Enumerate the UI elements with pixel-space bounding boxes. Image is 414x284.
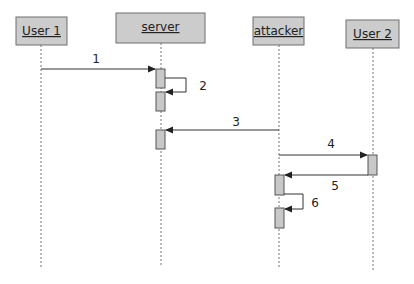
- message-label: 2: [199, 79, 207, 93]
- message-label: 4: [327, 137, 335, 151]
- actor-user1: User 1: [16, 17, 67, 45]
- message-label: 1: [92, 52, 100, 66]
- actor-label: server: [142, 20, 180, 34]
- message-4: 4: [279, 137, 367, 155]
- actor-label: attacker: [254, 24, 304, 38]
- message-3: 3: [166, 115, 279, 130]
- message-1: 1: [41, 52, 155, 69]
- actor-label: User 2: [353, 27, 392, 41]
- activation-server-1: [156, 69, 165, 88]
- message-5: 5: [285, 175, 368, 193]
- message-6: 6: [284, 194, 319, 210]
- activation-user2: [368, 155, 377, 175]
- message-label: 5: [331, 179, 339, 193]
- message-label: 6: [311, 196, 319, 210]
- message-2: 2: [165, 78, 207, 93]
- sequence-diagram: User 1 server attacker User 2 1 2 3 4: [0, 0, 414, 284]
- actor-label: User 1: [22, 24, 61, 38]
- message-label: 3: [232, 115, 240, 129]
- actor-server: server: [116, 13, 205, 43]
- actor-user2: User 2: [346, 20, 399, 48]
- activation-server-2: [156, 92, 165, 111]
- arrow-icon: [165, 78, 186, 92]
- activation-attacker-1: [275, 175, 284, 195]
- activation-attacker-2: [275, 208, 284, 228]
- arrow-icon: [284, 194, 303, 209]
- activation-server-3: [156, 130, 165, 149]
- actor-attacker: attacker: [253, 17, 304, 45]
